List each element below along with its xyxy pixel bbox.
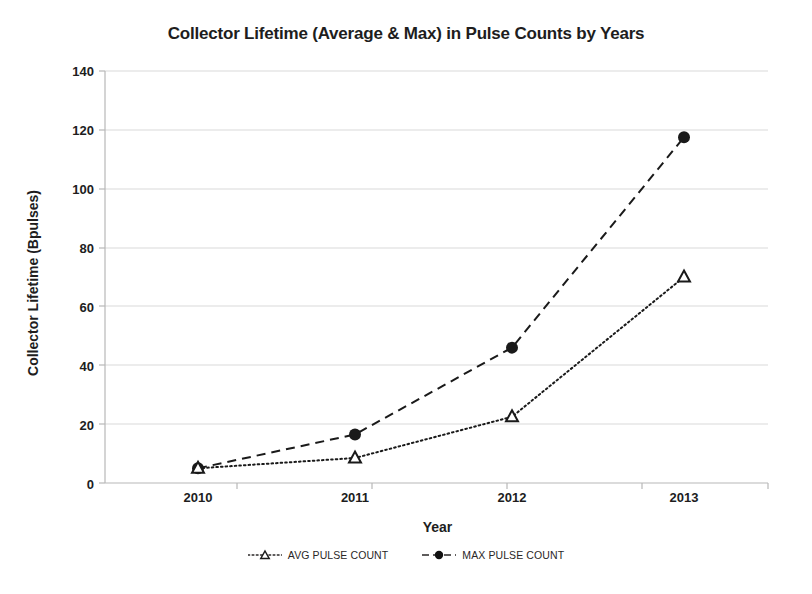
series-avg-pulse-count xyxy=(192,271,690,473)
x-axis-title: Year xyxy=(105,519,770,535)
legend-avg-marker-icon xyxy=(248,549,282,561)
data-point xyxy=(506,410,518,421)
data-point xyxy=(349,428,361,440)
plot-area xyxy=(0,0,812,594)
legend-label-avg-pulse-count: AVG PULSE COUNT xyxy=(288,549,389,561)
data-point xyxy=(678,131,690,143)
legend-item-avg-pulse-count[interactable]: AVG PULSE COUNT xyxy=(248,549,389,561)
legend-item-max-pulse-count[interactable]: MAX PULSE COUNT xyxy=(422,549,564,561)
legend-label-max-pulse-count: MAX PULSE COUNT xyxy=(462,549,564,561)
data-point xyxy=(506,342,518,354)
legend-max-marker-icon xyxy=(422,549,456,561)
chart-container: Collector Lifetime (Average & Max) in Pu… xyxy=(0,0,812,594)
series-max-pulse-count xyxy=(192,131,690,474)
axis-lines xyxy=(99,71,768,489)
gridlines xyxy=(105,71,768,424)
data-point xyxy=(678,271,690,282)
chart-legend: AVG PULSE COUNT MAX PULSE COUNT xyxy=(0,549,812,561)
